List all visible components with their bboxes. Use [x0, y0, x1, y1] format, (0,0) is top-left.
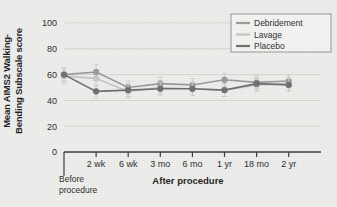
- x-tick-label: 2 wk: [87, 159, 106, 169]
- y-tick-label: 20: [47, 122, 57, 132]
- chart-legend: DebridementLavagePlacebo: [231, 14, 331, 52]
- x-tick-label: 18 mo: [244, 159, 269, 169]
- data-series-group: [61, 64, 292, 98]
- data-point-marker: [222, 77, 228, 83]
- legend-label: Placebo: [254, 41, 285, 51]
- data-point-marker: [93, 69, 99, 75]
- data-point-marker: [125, 87, 131, 93]
- axis-titles-group: After procedureBeforeprocedure: [59, 174, 224, 195]
- y-tick-label: 80: [47, 44, 57, 54]
- y-tick-label: 60: [47, 70, 57, 80]
- before-procedure-label-line2: procedure: [59, 185, 98, 195]
- legend-label: Lavage: [254, 30, 282, 40]
- x-tick-label: 6 mo: [182, 159, 202, 169]
- data-point-marker: [254, 81, 260, 87]
- x-tick-label: 2 yr: [281, 159, 296, 169]
- x-tick-label: 1 yr: [217, 159, 232, 169]
- data-point-marker: [93, 88, 99, 94]
- y-tick-label: 100: [42, 18, 57, 28]
- data-point-marker: [286, 82, 292, 88]
- x-axis-title: After procedure: [152, 175, 223, 186]
- before-procedure-label-line1: Before: [59, 174, 84, 184]
- y-axis-title-line2: Bending Subscale score: [13, 6, 25, 156]
- data-point-marker: [222, 87, 228, 93]
- data-point-marker: [157, 86, 163, 92]
- y-tick-label: 0: [52, 147, 57, 157]
- line-chart-plot: 020406080100 2 wk6 wk3 mo6 mo1 yr18 mo2 …: [0, 0, 337, 207]
- y-axis-title-line1: Mean AIMS2 Walking-: [1, 6, 13, 156]
- x-tick-labels-group: 2 wk6 wk3 mo6 mo1 yr18 mo2 yr: [87, 159, 296, 169]
- chart-figure: 020406080100 2 wk6 wk3 mo6 mo1 yr18 mo2 …: [0, 0, 337, 207]
- y-tick-label: 40: [47, 96, 57, 106]
- x-tick-label: 3 mo: [150, 159, 170, 169]
- y-axis-title: Mean AIMS2 Walking- Bending Subscale sco…: [1, 6, 37, 156]
- y-tick-labels-group: 020406080100: [42, 18, 57, 157]
- data-point-marker: [190, 86, 196, 92]
- data-point-marker: [61, 72, 67, 78]
- x-tick-label: 6 wk: [119, 159, 138, 169]
- legend-label: Debridement: [254, 18, 303, 28]
